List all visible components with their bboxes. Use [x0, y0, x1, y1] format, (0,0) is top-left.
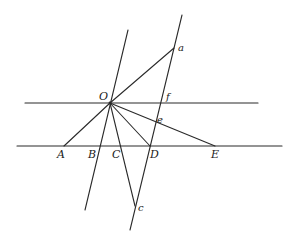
labels-group: OafeABCDEc [56, 42, 219, 213]
segment-O-A [64, 103, 110, 146]
label-e: e [157, 114, 163, 125]
label-B: B [87, 148, 96, 161]
transversal-a-f-e-D-c [130, 15, 182, 230]
label-a: a [178, 42, 184, 53]
label-f: f [165, 91, 172, 102]
segment-O-a [110, 48, 174, 103]
vertex-O-dot [109, 102, 112, 105]
segment-O-D [110, 103, 150, 146]
lines-group [17, 15, 282, 230]
label-c: c [138, 202, 144, 213]
label-C: C [112, 148, 121, 161]
label-A: A [56, 148, 65, 161]
label-E: E [210, 148, 219, 161]
label-D: D [149, 148, 159, 161]
geometry-diagram: OafeABCDEc [0, 0, 295, 246]
label-O: O [99, 90, 108, 103]
